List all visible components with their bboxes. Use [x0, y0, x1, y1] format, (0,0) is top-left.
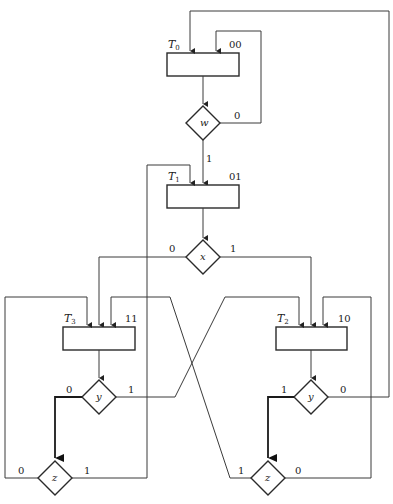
state-code-t2: 10	[338, 313, 351, 324]
state-t1: T1 01	[167, 170, 242, 208]
label-z-left-one: 1	[84, 465, 90, 476]
decision-y-left: y	[82, 380, 116, 414]
decision-var-y-right: y	[307, 391, 314, 402]
asm-chart: T0 00 w 0 1 T1 01 x 0 1 T3 11 T2 10	[0, 0, 393, 504]
label-x-zero: 0	[169, 243, 175, 254]
label-z-right-one: 1	[238, 465, 244, 476]
label-y-right-one: 1	[281, 384, 287, 395]
decision-var-w: w	[200, 117, 209, 128]
decision-y-right: y	[294, 380, 328, 414]
decision-x: x	[186, 240, 220, 274]
state-box-t3	[63, 327, 135, 350]
state-t0: T0 00	[167, 38, 242, 76]
state-box-t2	[276, 327, 347, 350]
decision-w: w	[186, 106, 220, 140]
label-w-one: 1	[206, 153, 212, 164]
state-code-t0: 00	[229, 39, 242, 50]
arrow-z-right-0-to-t2	[285, 297, 371, 478]
state-code-t3: 11	[125, 313, 138, 324]
state-name-t0: T0	[168, 38, 180, 52]
decision-var-z-right: z	[264, 472, 271, 483]
label-z-left-zero: 0	[18, 465, 24, 476]
arrow-y-right-1-to-z	[268, 397, 294, 458]
decision-var-x: x	[200, 251, 206, 262]
label-x-one: 1	[230, 243, 236, 254]
label-y-left-zero: 0	[66, 384, 72, 395]
state-t2: T2 10	[276, 312, 351, 350]
state-name-t3: T3	[64, 312, 76, 326]
state-name-t1: T1	[168, 170, 180, 184]
decision-var-z-left: z	[51, 472, 58, 483]
state-box-t1	[167, 185, 239, 208]
decision-var-y-left: y	[95, 391, 102, 402]
state-name-t2: T2	[277, 312, 289, 326]
decision-z-left: z	[38, 461, 72, 495]
state-code-t1: 01	[229, 171, 242, 182]
arrow-y-left-1-to-t2	[116, 297, 299, 397]
label-w-zero: 0	[234, 110, 240, 121]
arrow-x0-to-t3	[99, 257, 186, 325]
label-z-right-zero: 0	[295, 465, 301, 476]
label-y-right-zero: 0	[340, 384, 346, 395]
state-box-t0	[167, 53, 239, 76]
label-y-left-one: 1	[128, 384, 134, 395]
arrow-y-left-0-to-z	[55, 397, 82, 458]
arrow-x1-to-t2	[220, 257, 311, 325]
decision-z-right: z	[251, 461, 285, 495]
state-t3: T3 11	[63, 312, 138, 350]
